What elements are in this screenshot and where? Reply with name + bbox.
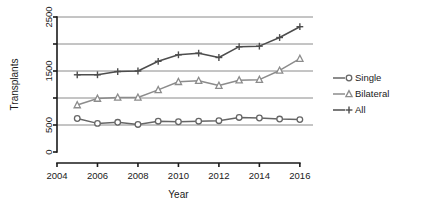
data-point-plus	[195, 50, 202, 57]
data-point-triangle	[155, 87, 161, 93]
x-tick-label: 2006	[87, 170, 108, 181]
y-tick-label: 500	[43, 117, 54, 133]
transplants-line-chart: 050015002500 200420062008201020122014201…	[0, 0, 424, 207]
data-point-circle	[236, 115, 242, 121]
x-tick-label: 2004	[46, 170, 67, 181]
data-point-plus	[346, 107, 353, 114]
chart-figure: 050015002500 200420062008201020122014201…	[0, 0, 424, 207]
data-point-plus	[155, 58, 162, 65]
data-point-triangle	[236, 77, 242, 83]
legend-label: All	[355, 104, 366, 115]
legend-item-bilateral[interactable]: Bilateral	[333, 88, 389, 99]
data-point-circle	[74, 116, 80, 122]
y-axis	[53, 17, 57, 152]
data-point-plus	[276, 34, 283, 41]
data-point-plus	[296, 23, 303, 30]
series-line	[77, 27, 300, 75]
legend-label: Bilateral	[355, 88, 389, 99]
y-axis-tick-labels: 050015002500	[43, 6, 54, 154]
y-tick-label: 1500	[43, 60, 54, 81]
y-tick-label: 0	[43, 149, 54, 154]
y-axis-title: Transplants	[9, 59, 20, 111]
data-point-circle	[297, 117, 303, 123]
data-point-plus	[94, 71, 101, 78]
data-point-plus	[114, 68, 121, 75]
x-axis	[57, 163, 300, 167]
data-point-triangle	[74, 102, 80, 108]
data-point-plus	[216, 54, 223, 61]
data-point-circle	[155, 118, 161, 124]
data-point-circle	[216, 118, 222, 124]
legend-label: Single	[355, 72, 381, 83]
x-tick-label: 2012	[208, 170, 229, 181]
data-point-triangle	[297, 55, 303, 61]
x-tick-label: 2010	[168, 170, 189, 181]
x-tick-label: 2014	[249, 170, 270, 181]
data-point-triangle	[216, 82, 222, 88]
data-point-triangle	[346, 91, 352, 97]
data-point-circle	[196, 118, 202, 124]
data-point-triangle	[196, 77, 202, 83]
data-point-circle	[346, 75, 352, 81]
chart-legend: SingleBilateralAll	[333, 72, 389, 115]
data-point-plus	[74, 71, 81, 78]
gridlines	[57, 17, 313, 125]
data-point-triangle	[135, 94, 141, 100]
data-point-plus	[175, 51, 182, 58]
data-point-plus	[135, 68, 142, 75]
data-point-triangle	[276, 67, 282, 73]
data-point-circle	[257, 115, 263, 121]
series-line	[77, 117, 300, 124]
data-point-triangle	[175, 78, 181, 84]
x-tick-label: 2008	[127, 170, 148, 181]
data-series-layer	[74, 23, 303, 127]
data-point-triangle	[256, 76, 262, 82]
data-point-circle	[95, 121, 101, 127]
y-tick-label: 2500	[43, 6, 54, 27]
series-all	[74, 23, 303, 78]
data-point-circle	[176, 119, 182, 125]
data-point-circle	[115, 120, 121, 126]
data-point-triangle	[94, 95, 100, 101]
legend-item-all[interactable]: All	[333, 104, 366, 115]
x-tick-label: 2016	[289, 170, 310, 181]
series-bilateral	[74, 55, 303, 108]
data-point-circle	[135, 122, 141, 128]
data-point-circle	[277, 116, 283, 122]
x-axis-tick-labels: 2004200620082010201220142016	[46, 170, 310, 181]
legend-item-single[interactable]: Single	[333, 72, 381, 83]
x-axis-title: Year	[168, 189, 189, 200]
data-point-triangle	[115, 94, 121, 100]
